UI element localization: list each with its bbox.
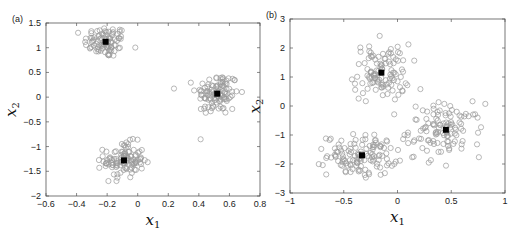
y-tick-label: −2 bbox=[31, 191, 41, 201]
data-point bbox=[470, 99, 475, 104]
centroid-marker bbox=[214, 91, 220, 97]
data-point bbox=[392, 97, 397, 102]
y-tick-label: 3 bbox=[280, 14, 285, 24]
data-point bbox=[395, 44, 400, 49]
x-tick-label: 0 bbox=[135, 199, 140, 209]
x-tick-label: −0.4 bbox=[68, 199, 86, 209]
data-point bbox=[356, 96, 361, 101]
data-point bbox=[339, 138, 344, 143]
x-tick-label: −0.5 bbox=[335, 196, 353, 206]
data-point bbox=[378, 165, 383, 170]
data-point bbox=[360, 81, 365, 86]
panel-label: (a) bbox=[12, 14, 23, 24]
x-tick-label: −0.2 bbox=[98, 199, 116, 209]
data-point bbox=[395, 147, 400, 152]
data-point bbox=[380, 51, 385, 56]
data-point bbox=[133, 45, 138, 50]
data-point bbox=[459, 121, 464, 126]
centroid-marker bbox=[359, 152, 365, 158]
centroid-marker bbox=[378, 70, 384, 76]
data-point bbox=[355, 74, 360, 79]
data-point bbox=[114, 178, 119, 183]
data-point bbox=[398, 74, 403, 79]
data-point bbox=[239, 89, 244, 94]
data-point bbox=[365, 86, 370, 91]
data-point bbox=[364, 146, 369, 151]
data-point bbox=[424, 148, 429, 153]
data-point bbox=[360, 91, 365, 96]
data-point bbox=[457, 120, 462, 125]
data-point bbox=[111, 172, 116, 177]
data-point bbox=[363, 167, 368, 172]
data-point bbox=[363, 99, 368, 104]
data-point bbox=[396, 92, 401, 97]
y-tick-label: 1.5 bbox=[28, 18, 41, 28]
data-point bbox=[96, 157, 101, 162]
data-point bbox=[135, 137, 140, 142]
data-point bbox=[478, 125, 483, 130]
data-point bbox=[475, 130, 480, 135]
data-point bbox=[431, 141, 436, 146]
data-point bbox=[474, 142, 479, 147]
data-point bbox=[353, 87, 358, 92]
data-point bbox=[198, 106, 203, 111]
data-point bbox=[192, 88, 197, 93]
x-tick-label: 0.4 bbox=[193, 199, 206, 209]
data-point bbox=[395, 50, 400, 55]
data-point bbox=[324, 155, 329, 160]
data-point bbox=[435, 140, 440, 145]
data-point bbox=[131, 147, 136, 152]
y-tick-label: 2 bbox=[280, 43, 285, 53]
y-axis-label: x2 bbox=[246, 99, 265, 114]
panel-label: (b) bbox=[266, 10, 277, 20]
data-point bbox=[431, 103, 436, 108]
data-point bbox=[368, 81, 373, 86]
y-tick-label: −1 bbox=[275, 130, 285, 140]
y-tick-label: 1 bbox=[280, 72, 285, 82]
data-point bbox=[75, 30, 80, 35]
data-point bbox=[413, 104, 418, 109]
x-tick-label: 0.6 bbox=[223, 199, 236, 209]
data-point bbox=[476, 155, 481, 160]
y-tick-label: −1 bbox=[31, 142, 41, 152]
centroid-marker bbox=[443, 127, 449, 133]
y-tick-label: −3 bbox=[275, 188, 285, 198]
data-point bbox=[448, 114, 453, 119]
data-point bbox=[360, 142, 365, 147]
data-point bbox=[207, 77, 212, 82]
y-tick-label: 0 bbox=[36, 92, 41, 102]
y-tick-label: 0.5 bbox=[28, 67, 41, 77]
data-point bbox=[97, 165, 102, 170]
data-point bbox=[460, 138, 465, 143]
y-tick-label: −0.5 bbox=[23, 117, 41, 127]
data-point bbox=[436, 100, 441, 105]
data-point bbox=[395, 79, 400, 84]
data-point bbox=[377, 33, 382, 38]
data-point bbox=[319, 146, 324, 151]
data-point bbox=[454, 109, 459, 114]
scatter-plot-a: −0.6−0.4−0.200.20.40.60.8−2−1.5−1−0.500.… bbox=[2, 14, 266, 230]
data-point bbox=[324, 172, 329, 177]
data-point bbox=[83, 42, 88, 47]
data-point bbox=[392, 112, 397, 117]
data-point bbox=[198, 137, 203, 142]
y-tick-label: 0 bbox=[280, 101, 285, 111]
data-point bbox=[406, 42, 411, 47]
x-tick-label: −1 bbox=[285, 196, 295, 206]
data-point bbox=[362, 61, 367, 66]
data-point bbox=[118, 170, 123, 175]
data-point bbox=[83, 36, 88, 41]
data-point bbox=[367, 44, 372, 49]
data-point bbox=[406, 140, 411, 145]
axes-frame bbox=[290, 19, 505, 193]
data-point bbox=[328, 136, 333, 141]
x-tick-label: 0.8 bbox=[254, 199, 267, 209]
data-point bbox=[386, 85, 391, 90]
data-point bbox=[352, 81, 357, 86]
data-point bbox=[171, 86, 176, 91]
x-tick-label: 0.2 bbox=[162, 199, 175, 209]
y-tick-label: 1 bbox=[36, 43, 41, 53]
data-point bbox=[424, 116, 429, 121]
scatter-plot-b: −1−0.500.51−3−2−10123(b)x1x2 bbox=[246, 10, 508, 227]
data-point bbox=[441, 141, 446, 146]
